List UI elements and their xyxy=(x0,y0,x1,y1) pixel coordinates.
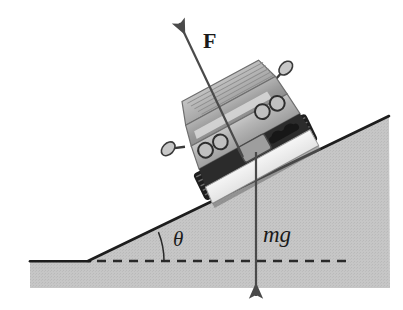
physics-diagram-inclined-plane: F mg θ xyxy=(0,0,403,310)
angle-label-theta: θ xyxy=(173,229,183,250)
force-label-F: F xyxy=(203,30,217,52)
ground-slab xyxy=(30,261,88,288)
weight-label-mg: mg xyxy=(263,223,291,246)
side-mirror-left xyxy=(156,135,186,160)
diagram-canvas xyxy=(0,0,403,310)
